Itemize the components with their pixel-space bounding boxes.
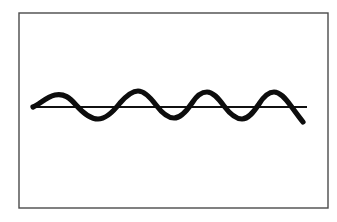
- figure-border: [19, 13, 328, 208]
- figure-root: Sinusoidal wave crossing a horizontal ax…: [0, 0, 337, 222]
- wave-diagram-canvas: [0, 0, 337, 222]
